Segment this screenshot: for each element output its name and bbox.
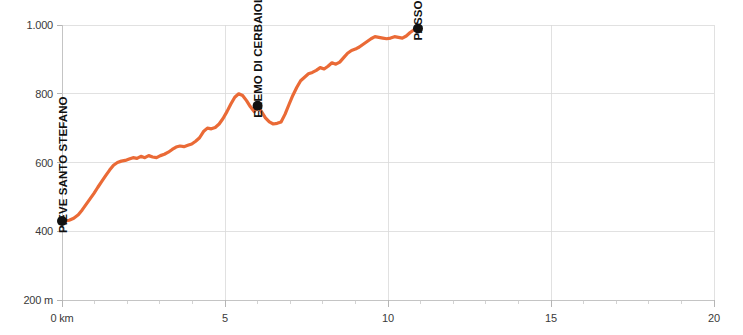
x-tick-label-5: 5 xyxy=(222,312,228,324)
elevation-profile-plot: 200 m4006008001.0000 km5101520PIEVE SANT… xyxy=(0,0,743,335)
elevation-profile-line xyxy=(62,28,418,221)
y-tick-label-600: 600 xyxy=(35,157,53,169)
x-tick-label-0: 0 km xyxy=(50,312,73,324)
y-tick-label-200: 200 m xyxy=(23,294,53,306)
y-tick-label-1000: 1.000 xyxy=(26,19,53,31)
poi-label-0: PIEVE SANTO STEFANO xyxy=(57,96,69,233)
y-tick-label-400: 400 xyxy=(35,225,53,237)
x-tick-label-20: 20 xyxy=(708,312,720,324)
elevation-profile-chart: 200 m4006008001.0000 km5101520PIEVE SANT… xyxy=(0,0,743,335)
y-tick-label-800: 800 xyxy=(35,88,53,100)
x-tick-label-15: 15 xyxy=(545,312,557,324)
poi-label-2: PASSO DI VIAMAGGIO xyxy=(412,0,424,40)
x-tick-label-10: 10 xyxy=(382,312,394,324)
poi-label-1: EREMO DI CERBAIOLO xyxy=(252,0,264,118)
